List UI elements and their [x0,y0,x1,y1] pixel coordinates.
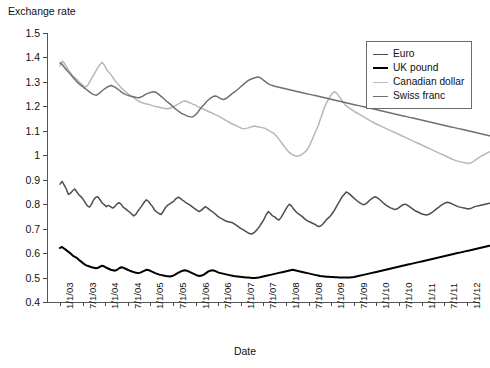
legend-label: Swiss franc [393,89,445,103]
legend-swatch-line-icon [373,82,388,83]
series-line-euro [60,181,489,234]
legend-swatch-line-icon [373,96,388,97]
legend-label: Euro [393,47,415,61]
legend-item[interactable]: Swiss franc [373,89,464,103]
chart-legend: EuroUK poundCanadian dollarSwiss franc [366,41,472,109]
legend-swatch-line-icon [373,54,388,55]
legend-label: Canadian dollar [393,75,464,89]
exchange-rate-line-chart: Exchange rate 1.51.41.31.21.110.90.80.70… [0,0,490,368]
legend-item[interactable]: UK pound [373,61,464,75]
legend-item[interactable]: Canadian dollar [373,75,464,89]
legend-label: UK pound [393,61,438,75]
legend-swatch-line-icon [373,67,388,69]
x-axis-title: Date [0,345,490,357]
series-line-uk-pound [60,246,489,278]
legend-item[interactable]: Euro [373,47,464,61]
